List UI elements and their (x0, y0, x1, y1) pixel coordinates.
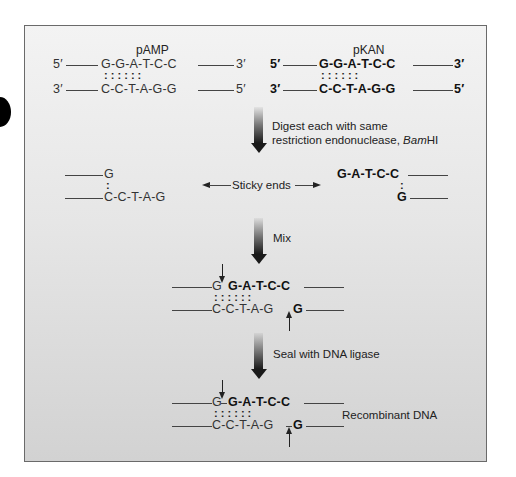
mixed-bottom-plain-sequence: C-C-T-A-G (212, 303, 274, 316)
pkan-bottom-sequence: C-C-T-A-G-G (319, 83, 396, 96)
pkan-label: pKAN (353, 44, 384, 56)
pamp-bottom-5prime: 5′ (236, 83, 246, 96)
sticky-right-arrow-icon (313, 182, 321, 188)
mixed-top-left-strand (172, 287, 212, 288)
pamp-top-5prime: 5′ (53, 58, 63, 71)
seal-label: Seal with DNA ligase (273, 349, 380, 361)
recombinant-top-left-strand (172, 403, 212, 404)
sticky-right-arrow-line (295, 185, 315, 186)
digest-instruction-line2: restriction endonuclease, BamHI (272, 135, 438, 147)
pamp-bottom-left-strand (66, 90, 98, 91)
recombinant-bottom-seal-line (289, 433, 290, 447)
right-fragment-top-sequence: G-A-T-C-C (337, 168, 399, 181)
digest-instruction-line1: Digest each with same (272, 121, 388, 133)
pkan-bottom-5prime: 5′ (454, 83, 464, 96)
enzyme-name-italic: Bam (403, 134, 427, 146)
enzyme-name-suffix: HI (427, 134, 439, 146)
pkan-bottom-left-strand (283, 90, 317, 91)
pkan-bottom-3prime: 3′ (270, 83, 280, 96)
pkan-top-right-strand (413, 65, 453, 66)
right-fragment-bottom-strand (410, 198, 448, 199)
pamp-bottom-3prime: 3′ (53, 83, 63, 96)
mixed-bottom-nick-line (289, 317, 290, 331)
pamp-base-pairs: : : : : : : (104, 70, 141, 81)
figure-marker-blob (0, 97, 11, 127)
pkan-top-5prime: 5′ (270, 58, 280, 71)
mixed-bottom-left-strand (172, 310, 212, 311)
pamp-label: pAMP (136, 44, 169, 56)
left-fragment-top-strand (65, 175, 103, 176)
recombinant-bottom-left-strand (172, 426, 212, 427)
mix-label: Mix (273, 233, 291, 245)
digest-text-prefix: restriction endonuclease, (272, 134, 403, 146)
pamp-top-left-strand (66, 65, 98, 66)
mixed-top-right-strand (304, 287, 344, 288)
mixed-bottom-right-strand (306, 310, 344, 311)
digest-step-arrow-icon (254, 107, 263, 153)
pamp-top-3prime: 3′ (236, 58, 246, 71)
pamp-bottom-right-strand (198, 90, 234, 91)
left-fragment-bottom-strand (65, 198, 103, 199)
sticky-left-arrow-line (209, 185, 231, 186)
mixed-bottom-bold-base: G (293, 303, 303, 316)
pamp-top-right-strand (198, 65, 234, 66)
sticky-ends-label: Sticky ends (232, 180, 291, 192)
recombinant-dna-label: Recombinant DNA (342, 410, 437, 422)
recombinant-bottom-right-strand (306, 426, 344, 427)
seal-step-arrow-icon (254, 333, 263, 379)
pkan-top-3prime: 3′ (454, 58, 464, 71)
pkan-top-left-strand (283, 65, 317, 66)
mix-step-arrow-icon (254, 218, 263, 264)
recombinant-bottom-plain-sequence: C-C-T-A-G (212, 419, 274, 432)
right-fragment-top-strand (408, 175, 448, 176)
pkan-bottom-right-strand (413, 90, 453, 91)
left-fragment-bottom-sequence: C-C-T-A-G (104, 191, 166, 204)
recombinant-top-right-strand (304, 403, 344, 404)
right-fragment-bottom-base: G (397, 191, 407, 204)
recombinant-top-bond (221, 403, 227, 404)
pkan-base-pairs: : : : : : : (321, 70, 358, 81)
recombinant-bottom-bold-base: G (293, 419, 303, 432)
pamp-bottom-sequence: C-C-T-A-G-G (101, 83, 177, 96)
